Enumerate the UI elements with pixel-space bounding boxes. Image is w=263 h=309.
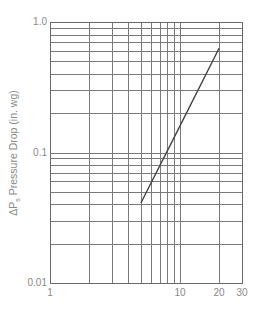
x-tick-label: 20 <box>214 287 226 298</box>
y-axis-title-symbol: P <box>7 202 19 209</box>
y-tick-label: 0.01 <box>28 277 48 288</box>
pressure-drop-chart: 1102030 1.00.10.01 ΔPs Pressure Drop (in… <box>0 0 263 309</box>
y-axis-title: ΔPs Pressure Drop (in. wg) <box>7 90 21 215</box>
x-tick-label: 1 <box>47 287 53 298</box>
y-tick-label: 1.0 <box>33 16 47 27</box>
y-tick-label: 0.1 <box>33 147 47 158</box>
y-axis-title-delta: Δ <box>7 209 19 216</box>
x-tick-label: 30 <box>236 287 248 298</box>
x-tick-label: 10 <box>174 287 186 298</box>
y-axis-title-text: Pressure Drop (in. wg) <box>7 90 19 198</box>
y-axis-tick-labels: 1.00.10.01 <box>28 16 48 288</box>
x-axis-tick-labels: 1102030 <box>47 287 248 298</box>
